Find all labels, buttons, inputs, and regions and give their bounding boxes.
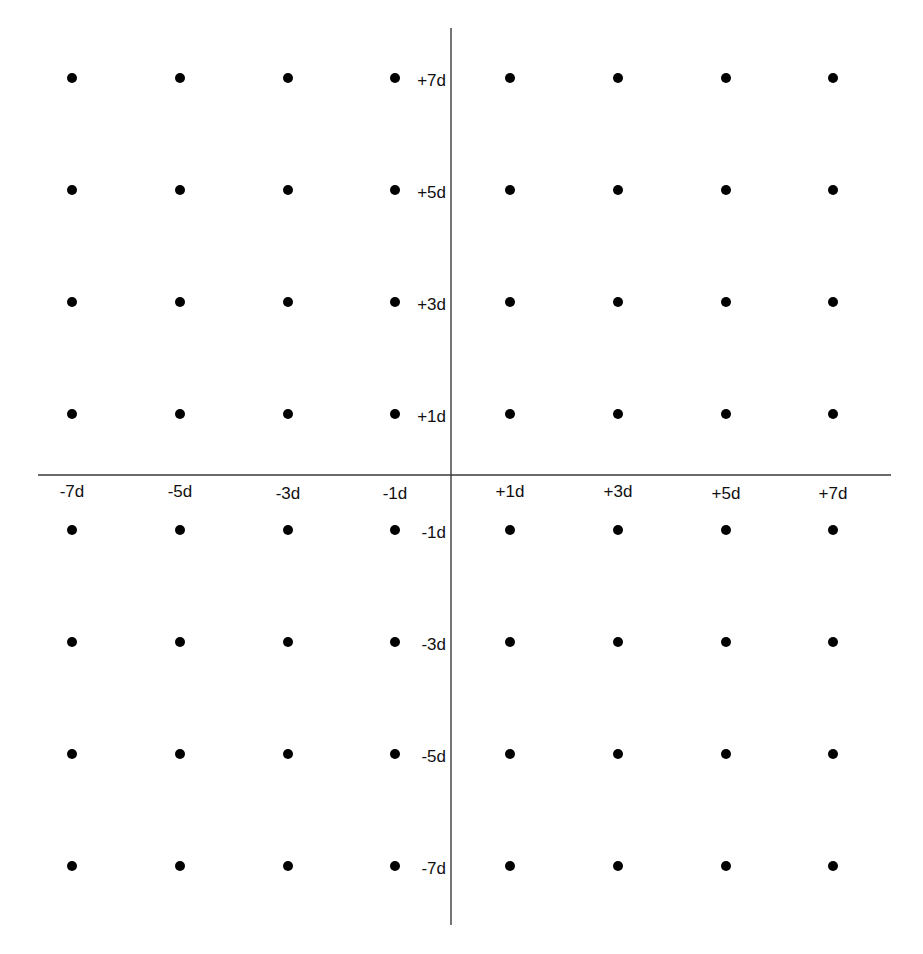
constellation-point xyxy=(505,297,515,307)
constellation-point xyxy=(390,861,400,871)
constellation-point xyxy=(721,749,731,759)
constellation-point xyxy=(175,409,185,419)
x-tick-label: +1d xyxy=(496,482,525,501)
constellation-point xyxy=(390,185,400,195)
y-tick-label: -5d xyxy=(421,747,446,766)
constellation-point xyxy=(283,73,293,83)
constellation-point xyxy=(721,409,731,419)
constellation-point xyxy=(613,297,623,307)
x-tick-label: -7d xyxy=(60,482,85,501)
x-tick-label: +3d xyxy=(604,482,633,501)
constellation-point xyxy=(505,185,515,195)
constellation-diagram: -7d-5d-3d-1d+1d+3d+5d+7d +7d+5d+3d+1d-1d… xyxy=(0,0,923,954)
constellation-point xyxy=(67,409,77,419)
constellation-point xyxy=(390,297,400,307)
constellation-point xyxy=(613,637,623,647)
y-tick-label: +7d xyxy=(417,71,446,90)
constellation-point xyxy=(828,185,838,195)
constellation-point xyxy=(828,409,838,419)
constellation-point xyxy=(505,525,515,535)
constellation-point xyxy=(505,73,515,83)
constellation-point xyxy=(613,861,623,871)
constellation-point xyxy=(175,297,185,307)
constellation-point xyxy=(175,525,185,535)
constellation-point xyxy=(613,409,623,419)
constellation-points xyxy=(67,73,838,871)
constellation-point xyxy=(721,73,731,83)
constellation-point xyxy=(283,297,293,307)
constellation-point xyxy=(390,73,400,83)
constellation-point xyxy=(390,525,400,535)
constellation-point xyxy=(828,749,838,759)
constellation-point xyxy=(505,637,515,647)
constellation-point xyxy=(175,185,185,195)
constellation-point xyxy=(390,409,400,419)
constellation-point xyxy=(721,861,731,871)
constellation-point xyxy=(67,749,77,759)
constellation-point xyxy=(283,525,293,535)
x-axis-tick-labels: -7d-5d-3d-1d+1d+3d+5d+7d xyxy=(60,482,848,503)
constellation-point xyxy=(828,297,838,307)
constellation-point xyxy=(828,525,838,535)
constellation-point xyxy=(67,637,77,647)
y-tick-label: +1d xyxy=(417,407,446,426)
constellation-point xyxy=(67,73,77,83)
x-tick-label: -1d xyxy=(383,484,408,503)
constellation-point xyxy=(283,637,293,647)
y-tick-label: +3d xyxy=(417,295,446,314)
constellation-point xyxy=(721,297,731,307)
constellation-point xyxy=(505,861,515,871)
constellation-point xyxy=(505,409,515,419)
constellation-point xyxy=(721,185,731,195)
y-tick-label: -7d xyxy=(421,859,446,878)
constellation-point xyxy=(828,861,838,871)
constellation-point xyxy=(175,637,185,647)
x-tick-label: +5d xyxy=(712,484,741,503)
x-tick-label: -3d xyxy=(276,484,301,503)
constellation-point xyxy=(721,525,731,535)
constellation-point xyxy=(175,73,185,83)
constellation-point xyxy=(67,297,77,307)
constellation-point xyxy=(505,749,515,759)
constellation-point xyxy=(390,637,400,647)
constellation-point xyxy=(67,861,77,871)
constellation-point xyxy=(67,525,77,535)
constellation-point xyxy=(283,185,293,195)
constellation-point xyxy=(613,185,623,195)
constellation-point xyxy=(613,525,623,535)
constellation-point xyxy=(613,73,623,83)
y-tick-label: -3d xyxy=(421,635,446,654)
y-tick-label: +5d xyxy=(417,183,446,202)
x-tick-label: +7d xyxy=(819,484,848,503)
constellation-point xyxy=(390,749,400,759)
constellation-point xyxy=(283,409,293,419)
constellation-point xyxy=(613,749,623,759)
constellation-point xyxy=(828,637,838,647)
constellation-point xyxy=(283,749,293,759)
constellation-point xyxy=(175,861,185,871)
constellation-point xyxy=(283,861,293,871)
constellation-point xyxy=(67,185,77,195)
constellation-point xyxy=(175,749,185,759)
y-tick-label: -1d xyxy=(421,523,446,542)
constellation-point xyxy=(828,73,838,83)
x-tick-label: -5d xyxy=(168,482,193,501)
constellation-point xyxy=(721,637,731,647)
